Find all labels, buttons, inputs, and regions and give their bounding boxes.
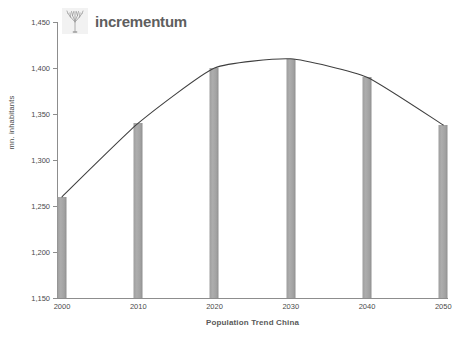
tree-icon: [62, 8, 88, 34]
brand-name: incrementum: [95, 13, 187, 30]
x-tick-label: 2040: [345, 302, 389, 311]
population-trend-chart: mn. inhabitants 1,1501,2001,2501,3001,35…: [0, 0, 454, 344]
plot-area: [57, 22, 448, 298]
x-tick-label: 2030: [269, 302, 313, 311]
y-tick-label: 1,250: [0, 202, 50, 211]
y-tick-label: 1,200: [0, 248, 50, 257]
x-tick-label: 2020: [192, 302, 236, 311]
brand-logo: incrementum: [62, 8, 187, 34]
x-axis-title: Population Trend China: [57, 318, 448, 327]
x-tick-label: 2000: [40, 302, 84, 311]
y-tick-label: 1,400: [0, 64, 50, 73]
y-tick-label: 1,450: [0, 18, 50, 27]
y-tick: [53, 298, 58, 299]
trend-line: [57, 22, 448, 298]
x-axis-line: [57, 298, 448, 299]
y-tick-label: 1,350: [0, 110, 50, 119]
x-tick-label: 2010: [116, 302, 160, 311]
x-tick-label: 2050: [421, 302, 454, 311]
y-tick-label: 1,300: [0, 156, 50, 165]
